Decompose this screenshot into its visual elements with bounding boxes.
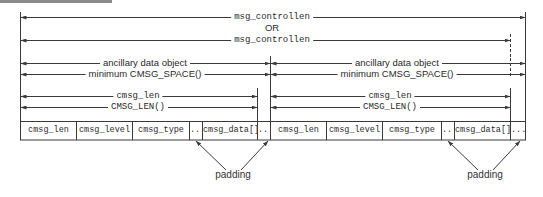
padding-label-2: padding xyxy=(467,169,503,180)
cell-padding-a-1: .... xyxy=(190,121,202,140)
msg-controllen-label-2: msg_controllen xyxy=(231,35,313,45)
cmsg-space-label-2: minimum CMSG_SPACE() xyxy=(338,69,457,79)
cmsg-len-label-2: cmsg_len xyxy=(365,91,414,101)
ancillary-data-object-label-2: ancillary data object xyxy=(352,58,442,68)
padding-label-1: padding xyxy=(215,169,251,180)
cell-cmsg-level-1: cmsg_level xyxy=(77,121,132,140)
cell-cmsg-data-2: cmsg_data[] xyxy=(455,121,510,140)
cell-cmsg-data-1: cmsg_data[] xyxy=(203,121,257,140)
cell-cmsg-len-2: cmsg_len xyxy=(271,121,326,140)
cmsg-len-label-1: cmsg_len xyxy=(113,91,162,101)
cell-padding-b-1: .... xyxy=(258,121,270,140)
cmsg-len-macro-label-2: CMSG_LEN() xyxy=(360,102,420,112)
cell-cmsg-type-1: cmsg_type xyxy=(133,121,189,140)
cell-padding-b-2: .... xyxy=(511,121,525,140)
cell-cmsg-len-1: cmsg_len xyxy=(21,121,76,140)
cmsg-space-label-1: minimum CMSG_SPACE() xyxy=(86,69,205,79)
msg-controllen-label-1: msg_controllen xyxy=(231,12,313,22)
cmsg-len-macro-label-1: CMSG_LEN() xyxy=(108,102,168,112)
cell-cmsg-level-2: cmsg_level xyxy=(327,121,382,140)
cell-cmsg-type-2: cmsg_type xyxy=(383,121,441,140)
ancillary-data-object-label-1: ancillary data object xyxy=(100,58,190,68)
cell-padding-a-2: .... xyxy=(442,121,454,140)
or-label: OR xyxy=(262,23,282,33)
